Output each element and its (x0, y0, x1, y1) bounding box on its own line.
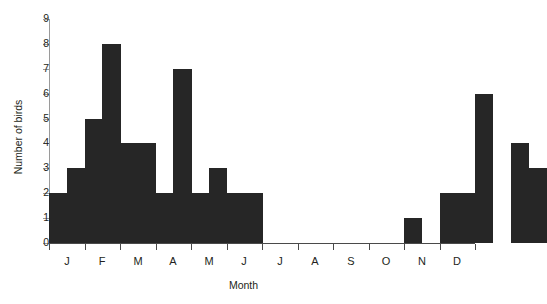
y-tick-label-8: 8 (13, 38, 49, 49)
bar (138, 143, 156, 243)
x-tick-6 (262, 244, 263, 250)
y-tick-label-1: 1 (13, 212, 49, 223)
bar (404, 218, 422, 243)
bar (120, 143, 138, 243)
y-tick-label-9: 9 (13, 13, 49, 24)
x-tick-9 (369, 244, 370, 250)
bar (528, 168, 546, 243)
bar (475, 94, 493, 243)
x-tick-label-march: M (120, 256, 156, 267)
x-tick-label-january: J (49, 256, 85, 267)
y-tick-label-0: 0 (13, 237, 49, 248)
x-tick-3 (156, 244, 157, 250)
bar (191, 193, 209, 243)
x-tick-label-april: A (155, 256, 191, 267)
y-tick-label-7: 7 (13, 63, 49, 74)
bar (173, 69, 191, 243)
x-tick-0 (49, 244, 50, 250)
x-tick-5 (227, 244, 228, 250)
bar (102, 44, 120, 243)
x-tick-10 (404, 244, 405, 250)
x-tick-label-may: M (191, 256, 227, 267)
bar (227, 193, 245, 243)
x-tick-8 (333, 244, 334, 250)
bar (244, 193, 262, 243)
x-tick-label-november: N (404, 256, 440, 267)
bar (156, 193, 174, 243)
bar (209, 168, 227, 243)
x-tick-label-december: D (439, 256, 475, 267)
x-tick-label-june: J (226, 256, 262, 267)
x-tick-label-september: S (333, 256, 369, 267)
x-tick-label-july: J (262, 256, 298, 267)
x-tick-7 (298, 244, 299, 250)
x-tick-2 (120, 244, 121, 250)
bar (49, 193, 67, 243)
x-tick-label-august: A (297, 256, 333, 267)
x-tick-label-february: F (84, 256, 120, 267)
x-tick-12 (475, 244, 476, 250)
bar (457, 193, 475, 243)
x-axis-title: Month (0, 279, 487, 291)
bar (511, 143, 529, 243)
x-tick-11 (440, 244, 441, 250)
x-tick-1 (85, 244, 86, 250)
x-tick-4 (191, 244, 192, 250)
bar (440, 193, 458, 243)
x-tick-label-october: O (368, 256, 404, 267)
bar (67, 168, 85, 243)
bar (85, 119, 103, 243)
y-axis-title: Number of birds (12, 77, 24, 197)
